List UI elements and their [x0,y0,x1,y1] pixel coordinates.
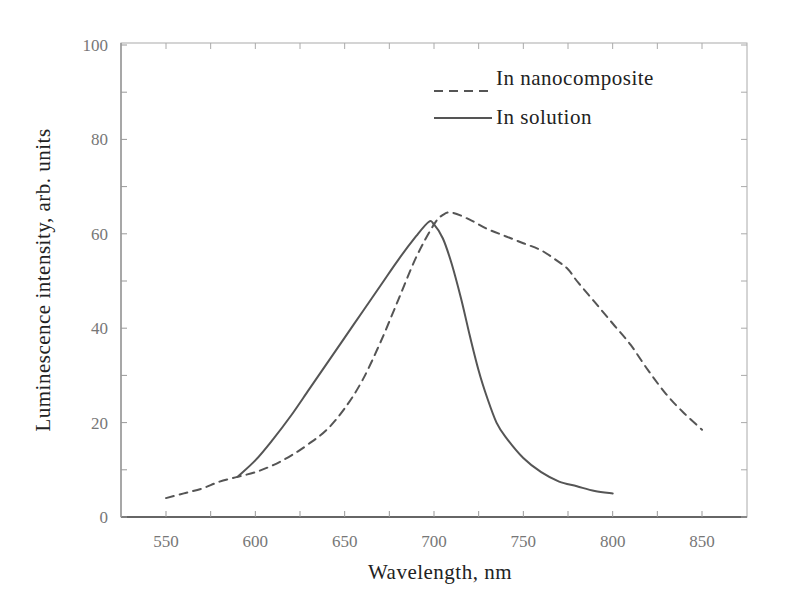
series-solution-line [238,221,613,493]
plot-frame [121,43,747,517]
x-tick-label: 850 [689,532,715,551]
plot-border [121,43,747,517]
x-tick-label: 700 [421,532,447,551]
y-tick-label: 60 [91,225,108,244]
x-tick-label: 550 [153,532,179,551]
x-tick-label: 800 [600,532,626,551]
luminescence-chart: 550600650700750800850020406080100 In nan… [0,0,786,609]
y-tick-label: 40 [91,319,108,338]
y-tick-label: 0 [100,508,109,527]
legend-label-solution: In solution [496,105,592,129]
x-tick-label: 600 [243,532,269,551]
y-tick-label: 100 [83,36,109,55]
series-nanocomposite-line [166,212,702,498]
legend: In nanocomposite In solution [434,66,654,129]
axis-ticks [121,43,747,517]
tick-labels: 550600650700750800850020406080100 [83,36,715,551]
data-series [166,212,702,498]
x-axis-title: Wavelength, nm [368,560,512,584]
legend-label-nanocomposite: In nanocomposite [496,66,654,90]
y-axis-title: Luminescence intensity, arb. units [31,128,55,431]
y-tick-label: 80 [91,130,108,149]
x-tick-label: 650 [332,532,358,551]
x-tick-label: 750 [511,532,537,551]
y-tick-label: 20 [91,414,108,433]
